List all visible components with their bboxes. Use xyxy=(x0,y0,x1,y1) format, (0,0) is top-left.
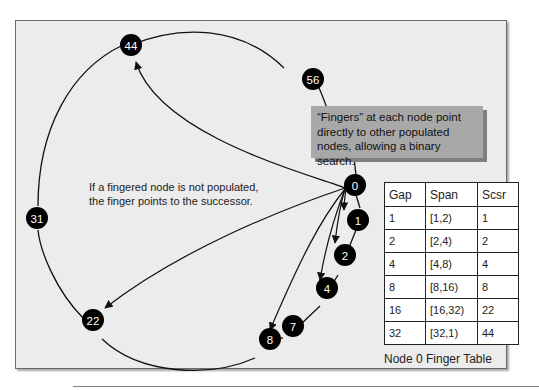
header-gap: Gap xyxy=(385,183,426,207)
cell-scsr: 44 xyxy=(478,322,519,345)
table-row: 4 [4,8) 4 xyxy=(385,253,519,276)
svg-text:56: 56 xyxy=(307,74,320,86)
node-4: 4 xyxy=(316,277,338,299)
finger-arrow-to-8 xyxy=(270,189,345,330)
finger-arrow-to-2 xyxy=(335,189,345,243)
cell-span: [1,2) xyxy=(426,207,478,230)
node-22: 22 xyxy=(82,309,104,331)
node-56: 56 xyxy=(302,68,324,90)
cell-scsr: 8 xyxy=(478,276,519,299)
node-2: 2 xyxy=(334,244,356,266)
cell-scsr: 4 xyxy=(478,253,519,276)
table-row: 2 [2,4) 2 xyxy=(385,230,519,253)
cell-span: [2,4) xyxy=(426,230,478,253)
note-line-1: If a fingered node is not populated, xyxy=(89,180,258,194)
cell-gap: 16 xyxy=(385,299,426,322)
cell-span: [32,1) xyxy=(426,322,478,345)
cell-gap: 32 xyxy=(385,322,426,345)
svg-text:2: 2 xyxy=(342,250,348,262)
table-row: 1 [1,2) 1 xyxy=(385,207,519,230)
node-7: 7 xyxy=(282,315,304,337)
ring-arc-0-1 xyxy=(356,195,360,208)
callout-line-2: directly to other populated xyxy=(317,125,477,140)
cell-scsr: 22 xyxy=(478,299,519,322)
svg-text:7: 7 xyxy=(290,321,296,333)
svg-text:44: 44 xyxy=(125,40,138,52)
svg-text:4: 4 xyxy=(324,283,331,295)
svg-text:31: 31 xyxy=(31,213,44,225)
cell-gap: 8 xyxy=(385,276,426,299)
svg-text:22: 22 xyxy=(87,315,100,327)
svg-text:0: 0 xyxy=(352,180,358,192)
header-scsr: Scsr xyxy=(478,183,519,207)
callout-line-1: “Fingers” at each node point xyxy=(317,110,477,125)
cell-scsr: 1 xyxy=(478,207,519,230)
node-44: 44 xyxy=(120,34,142,56)
table-header-row: Gap Span Scsr xyxy=(385,183,519,207)
cell-gap: 4 xyxy=(385,253,426,276)
ring-arc-22-31 xyxy=(38,230,84,319)
node-1: 1 xyxy=(347,209,369,231)
fingers-callout: “Fingers” at each node point directly to… xyxy=(311,106,483,158)
cell-span: [16,32) xyxy=(426,299,478,322)
finger-table: Gap Span Scsr 1 [1,2) 1 2 [2,4) 2 4 [4,8… xyxy=(384,182,519,345)
table-row: 32 [32,1) 44 xyxy=(385,322,519,345)
ring-arc-44-56 xyxy=(131,32,284,68)
node-31: 31 xyxy=(26,207,48,229)
callout-line-3: nodes, allowing a binary search. xyxy=(317,139,477,168)
table-row: 8 [8,16) 8 xyxy=(385,276,519,299)
table-row: 16 [16,32) 22 xyxy=(385,299,519,322)
cell-gap: 1 xyxy=(385,207,426,230)
cell-scsr: 2 xyxy=(478,230,519,253)
header-span: Span xyxy=(426,183,478,207)
cell-span: [4,8) xyxy=(426,253,478,276)
svg-text:8: 8 xyxy=(267,334,273,346)
ring-arc-8-22 xyxy=(102,339,255,370)
note-line-2: the finger points to the successor. xyxy=(89,194,258,208)
svg-text:1: 1 xyxy=(355,215,361,227)
finger-table-caption: Node 0 Finger Table xyxy=(384,352,492,366)
node-8: 8 xyxy=(259,328,281,350)
cell-span: [8,16) xyxy=(426,276,478,299)
node-0: 0 xyxy=(344,174,366,196)
successor-note: If a fingered node is not populated, the… xyxy=(89,180,258,208)
cell-gap: 2 xyxy=(385,230,426,253)
